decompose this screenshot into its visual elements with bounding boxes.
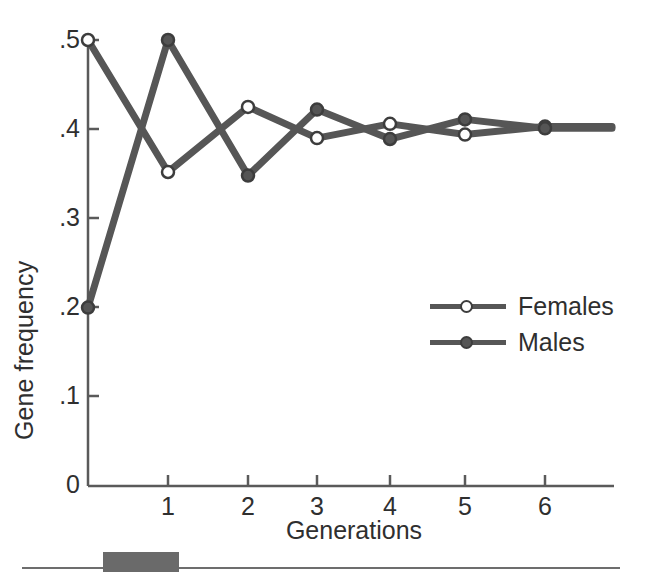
chart-figure: Gene frequency 0 .1 .2 .3 .4 .5 1 2 3 4 … bbox=[0, 0, 648, 574]
open-circle-icon bbox=[460, 300, 473, 313]
data-point-males-gen-0 bbox=[82, 302, 94, 314]
filled-circle-icon bbox=[460, 336, 473, 349]
legend-item-males[interactable]: Males bbox=[430, 324, 620, 360]
data-point-males-gen-1 bbox=[162, 34, 174, 46]
data-point-males-gen-4 bbox=[384, 133, 396, 145]
data-point-males-gen-6 bbox=[539, 122, 551, 134]
legend-label-males: Males bbox=[506, 328, 585, 357]
data-point-females-gen-4 bbox=[384, 118, 396, 130]
chart-legend: Females Males bbox=[430, 288, 620, 360]
page-marker-block bbox=[103, 552, 179, 572]
data-point-males-gen-5 bbox=[459, 113, 471, 125]
plot-area bbox=[0, 0, 648, 574]
series-layer bbox=[82, 34, 612, 314]
series-line-females bbox=[88, 40, 612, 172]
legend-swatch-females bbox=[430, 296, 506, 316]
data-point-females-gen-0 bbox=[82, 34, 94, 46]
x-axis-ticks bbox=[168, 475, 545, 486]
legend-label-females: Females bbox=[506, 292, 614, 321]
legend-item-females[interactable]: Females bbox=[430, 288, 620, 324]
y-axis-ticks bbox=[88, 40, 99, 396]
data-point-females-gen-1 bbox=[162, 166, 174, 178]
data-point-females-gen-3 bbox=[311, 132, 323, 144]
legend-swatch-males bbox=[430, 332, 506, 352]
data-point-females-gen-5 bbox=[459, 129, 471, 141]
data-point-females-gen-2 bbox=[242, 101, 254, 113]
data-point-males-gen-3 bbox=[311, 104, 323, 116]
data-point-males-gen-2 bbox=[242, 170, 254, 182]
